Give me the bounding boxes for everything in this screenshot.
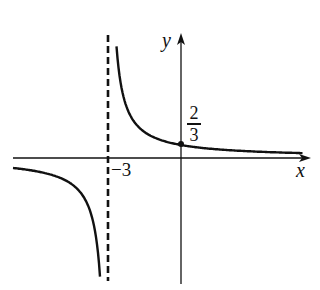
curve-left-branch — [13, 168, 100, 277]
point-label-fraction: 2 3 — [187, 104, 201, 144]
chart-figure: y x −3 2 3 — [0, 0, 320, 290]
fraction-numerator: 2 — [190, 103, 199, 123]
y-intercept-point — [178, 141, 184, 147]
plot-canvas — [0, 0, 320, 290]
curve-right-branch — [117, 46, 303, 153]
x-axis-label: x — [296, 160, 305, 180]
asymptote-tick-label: −3 — [111, 160, 131, 179]
y-axis-label: y — [162, 30, 171, 50]
fraction-denominator: 3 — [190, 125, 199, 145]
